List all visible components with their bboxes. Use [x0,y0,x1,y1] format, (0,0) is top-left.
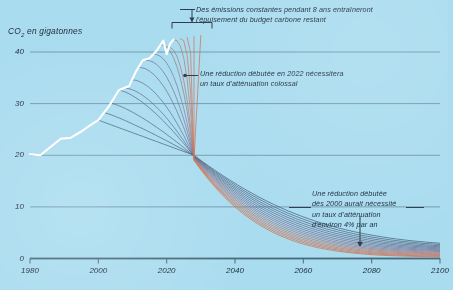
x-tick-label: 2060 [286,266,320,275]
historical-emissions-line [30,40,174,156]
y-tick-label: 40 [2,47,24,56]
x-axis [30,259,440,264]
y-tick-label: 30 [2,99,24,108]
x-tick-label: 2040 [218,266,252,275]
y-axis-label: CO2 en gigatonnes [8,26,82,38]
x-tick-label: 2000 [81,266,115,275]
y-tick-label: 20 [2,150,24,159]
y-tick-label: 10 [2,202,24,211]
x-tick-label: 2020 [150,266,184,275]
y-tick-label: 0 [2,254,24,263]
annotation-2022-start: Une réduction débutée en 2022 nécessiter… [200,69,344,90]
annotation-2022-marker [183,74,198,78]
x-tick-label: 2100 [423,266,453,275]
x-tick-label: 1980 [13,266,47,275]
x-tick-label: 2080 [355,266,389,275]
annotation-2000-start: Une réduction débutée dès 2000 aurait né… [312,189,396,231]
annotation-carbon-budget: Des émissions constantes pendant 8 ans e… [196,5,373,26]
